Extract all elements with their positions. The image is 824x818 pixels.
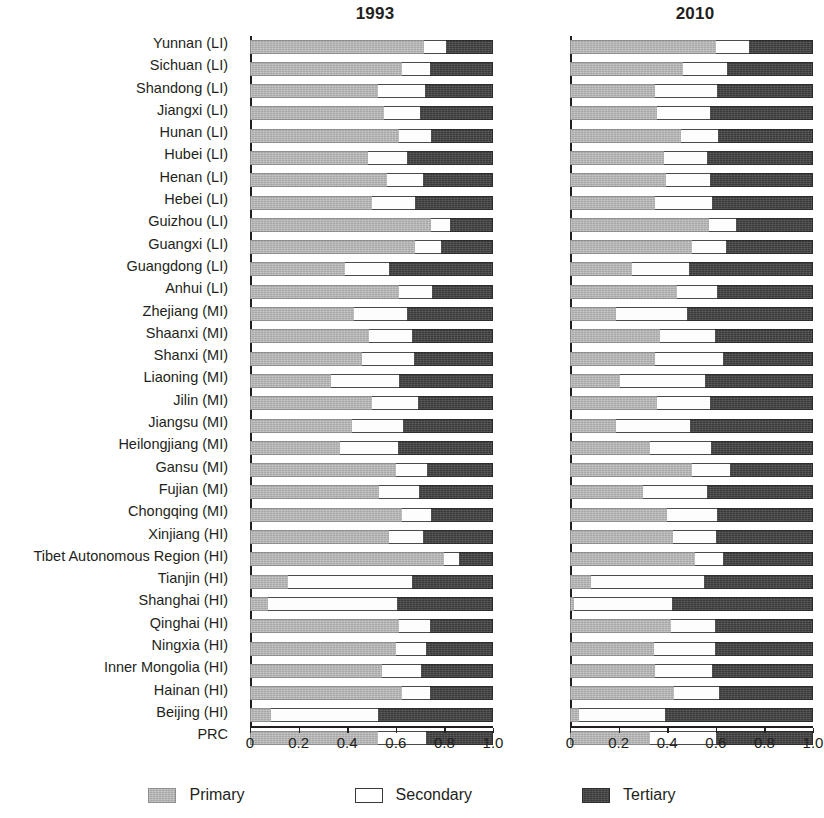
bar-segment-tertiary (672, 597, 813, 611)
bar-segment-primary (570, 262, 632, 276)
bar-segment-primary (570, 396, 657, 410)
bar-row (250, 571, 493, 593)
bars-1993 (250, 36, 493, 750)
bar-row (250, 192, 493, 214)
bar-segment-primary (570, 508, 667, 522)
bar-segment-primary (570, 62, 683, 76)
bar-segment-tertiary (430, 686, 493, 700)
category-label: Liaoning (MI) (0, 370, 236, 392)
category-label: Guangxi (LI) (0, 237, 236, 259)
x-tick-label: 1.0 (483, 734, 504, 751)
category-label: Tianjin (HI) (0, 571, 236, 593)
bar-row (570, 593, 813, 615)
bar-row (250, 393, 493, 415)
chart-legend: Primary Secondary Tertiary (0, 786, 824, 804)
bar-segment-secondary (268, 597, 397, 611)
legend-label-primary: Primary (189, 786, 244, 804)
x-tick-mark (570, 728, 571, 733)
bar-segment-primary (250, 129, 399, 143)
bar-segment-primary (570, 329, 660, 343)
bar-row (250, 304, 493, 326)
bar-segment-tertiary (425, 84, 493, 98)
bar-segment-tertiary (426, 642, 493, 656)
bar-segment-secondary (695, 552, 723, 566)
bar-segment-primary (250, 307, 354, 321)
bar-segment-primary (250, 552, 444, 566)
bar-segment-tertiary (665, 708, 813, 722)
bar-segment-tertiary (704, 575, 813, 589)
x-tick-label: 0.2 (608, 734, 629, 751)
bar-segment-tertiary (730, 463, 813, 477)
bar-row (250, 259, 493, 281)
x-tick-label: 0.4 (657, 734, 678, 751)
category-label: Ningxia (HI) (0, 638, 236, 660)
bar-row (570, 36, 813, 58)
bar-row (570, 527, 813, 549)
bar-segment-primary (570, 84, 655, 98)
bar-segment-primary (250, 463, 396, 477)
bar-segment-primary (250, 419, 352, 433)
bar-segment-secondary (620, 374, 705, 388)
bar-segment-primary (250, 151, 368, 165)
bar-segment-secondary (677, 285, 717, 299)
bar-segment-tertiary (418, 396, 493, 410)
bar-segment-tertiary (419, 485, 493, 499)
bar-segment-tertiary (430, 619, 493, 633)
bar-segment-secondary (399, 619, 429, 633)
bar-segment-secondary (655, 196, 712, 210)
category-label: Jilin (MI) (0, 393, 236, 415)
category-label: Shandong (LI) (0, 81, 236, 103)
bar-segment-tertiary (399, 374, 493, 388)
bar-row (250, 147, 493, 169)
bar-segment-tertiary (420, 106, 493, 120)
bar-segment-tertiary (378, 708, 493, 722)
bar-row (570, 460, 813, 482)
bar-segment-tertiary (398, 441, 493, 455)
category-label: Shaanxi (MI) (0, 326, 236, 348)
bar-segment-secondary (288, 575, 412, 589)
bar-segment-tertiary (718, 129, 813, 143)
bar-segment-primary (250, 575, 288, 589)
bar-segment-primary (250, 62, 402, 76)
legend-label-secondary: Secondary (396, 786, 473, 804)
bar-segment-primary (570, 530, 673, 544)
bar-segment-primary (250, 686, 402, 700)
bar-segment-tertiary (407, 151, 493, 165)
bar-row (250, 281, 493, 303)
category-label: Anhui (LI) (0, 281, 236, 303)
bar-row (250, 593, 493, 615)
bar-segment-tertiary (716, 530, 813, 544)
x-tick-label: 0.8 (754, 734, 775, 751)
bar-segment-secondary (399, 285, 432, 299)
bar-segment-tertiary (431, 508, 493, 522)
bar-segment-primary (250, 285, 399, 299)
x-axis-ticks-1993: 00.20.40.60.81.0 (250, 728, 493, 754)
bars-2010 (570, 36, 813, 750)
bar-segment-primary (250, 396, 372, 410)
x-tick-label: 0.2 (288, 734, 309, 751)
category-label: Yunnan (LI) (0, 36, 236, 58)
bar-row (570, 348, 813, 370)
bar-segment-primary (570, 218, 709, 232)
bar-segment-primary (570, 552, 695, 566)
bar-segment-tertiary (710, 173, 813, 187)
bar-segment-primary (250, 262, 345, 276)
bar-segment-primary (570, 106, 657, 120)
bar-segment-tertiary (421, 664, 493, 678)
bar-row (250, 326, 493, 348)
bar-segment-tertiary (710, 106, 813, 120)
bar-segment-tertiary (707, 485, 813, 499)
plot-panel-1993: 00.20.40.60.81.0 (250, 36, 493, 728)
bar-row (570, 147, 813, 169)
bar-segment-secondary (579, 708, 665, 722)
bar-segment-tertiary (690, 419, 813, 433)
bar-segment-secondary (650, 441, 711, 455)
bar-segment-tertiary (423, 530, 493, 544)
bar-segment-secondary (382, 664, 421, 678)
bar-row (250, 549, 493, 571)
category-label: Hebei (LI) (0, 192, 236, 214)
x-tick-label: 1.0 (803, 734, 824, 751)
bar-segment-primary (250, 374, 331, 388)
bar-segment-tertiary (407, 307, 493, 321)
x-tick-label: 0 (246, 734, 254, 751)
